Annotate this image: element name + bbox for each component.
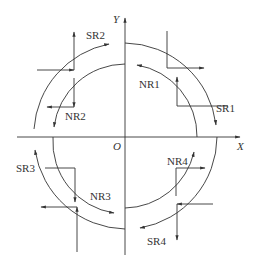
- region-label-sr1: SR1: [216, 103, 235, 114]
- diagram-canvas: [0, 0, 255, 262]
- region-label-nr3: NR3: [90, 191, 111, 202]
- nr1-arc: [137, 65, 197, 137]
- region-label-sr2: SR2: [86, 30, 105, 41]
- x-axis-label: X: [237, 141, 244, 152]
- region-label-nr2: NR2: [65, 111, 86, 122]
- sr3-arc: [35, 150, 125, 229]
- quadrant-arc-diagram: Y X O SR1 NR1 SR2 NR2 SR3 NR3 SR4 NR4: [0, 0, 255, 262]
- region-label-sr3: SR3: [16, 163, 35, 174]
- origin-label: O: [113, 141, 121, 152]
- region-label-nr1: NR1: [139, 79, 160, 90]
- region-label-nr4: NR4: [167, 156, 188, 167]
- region-label-sr4: SR4: [147, 236, 166, 247]
- y-axis-label: Y: [113, 14, 119, 25]
